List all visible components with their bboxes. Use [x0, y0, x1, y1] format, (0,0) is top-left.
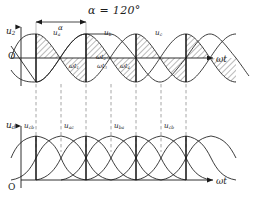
phase-a-label: ua — [53, 29, 60, 37]
line-voltage-ac-label: uac — [64, 122, 74, 130]
line-voltage-cb-label-1: ucb — [24, 122, 34, 130]
alpha-title: α = 120° — [88, 5, 141, 16]
top-panel — [11, 22, 249, 86]
top-y-axis-label: u2 — [6, 27, 15, 37]
waveform-diagram — [0, 0, 253, 204]
phase-b-label: ub — [104, 29, 112, 37]
time-mark-4-label: ωt4 — [120, 63, 130, 70]
line-voltage-cb-label-2: ucb — [164, 122, 174, 130]
bottom-origin-label: O — [8, 183, 15, 192]
bottom-x-axis-label: ωt — [216, 177, 227, 186]
time-mark-1-label: ωt1 — [69, 63, 79, 70]
alignment-dashed-lines — [36, 84, 186, 152]
top-origin-label: O — [8, 52, 15, 61]
bottom-panel — [11, 126, 236, 188]
time-mark-2-label: ωt2 — [96, 54, 106, 61]
time-mark-3-label: ωt3 — [97, 63, 107, 70]
figure-container: α = 120° α u2 O ωt ua ub uc ωt1 ωt2 ωt3 … — [0, 0, 253, 204]
line-voltage-ba-label: uba — [114, 122, 124, 130]
phase-c-label: uc — [155, 29, 162, 37]
bottom-y-axis-label: ud — [6, 121, 15, 131]
top-x-axis-label: ωt — [216, 55, 227, 64]
line-voltage-curves — [11, 136, 236, 180]
